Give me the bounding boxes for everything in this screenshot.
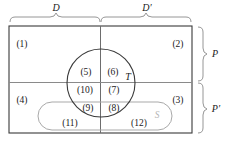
brace-label-d-prime: D′: [142, 3, 151, 13]
region-label-5: (5): [80, 68, 91, 78]
brace-d: [10, 13, 100, 22]
brace-p-prime: [198, 83, 207, 133]
region-label-9: (9): [82, 104, 93, 114]
set-label-t: T: [125, 72, 131, 82]
brace-label-p-prime: P′: [212, 104, 220, 114]
region-label-3: (3): [172, 96, 183, 106]
brace-d-prime: [101, 13, 191, 22]
set-label-s: S: [155, 111, 160, 121]
region-label-10: (10): [77, 86, 93, 96]
region-label-4: (4): [16, 96, 27, 106]
region-label-2: (2): [172, 40, 183, 50]
region-label-8: (8): [108, 104, 119, 114]
brace-p: [198, 27, 207, 81]
region-label-7: (7): [108, 86, 119, 96]
brace-label-d: D: [52, 3, 59, 13]
region-label-12: (12): [131, 119, 147, 129]
region-label-6: (6): [107, 68, 118, 78]
region-label-1: (1): [16, 40, 27, 50]
brace-label-p: P: [212, 49, 218, 59]
set-s-shape: [38, 102, 172, 130]
region-label-11: (11): [62, 119, 77, 129]
venn-diagram-figure: D D′ P P′ T S (1) (2) (3) (4) (5) (6) (7…: [0, 0, 226, 146]
